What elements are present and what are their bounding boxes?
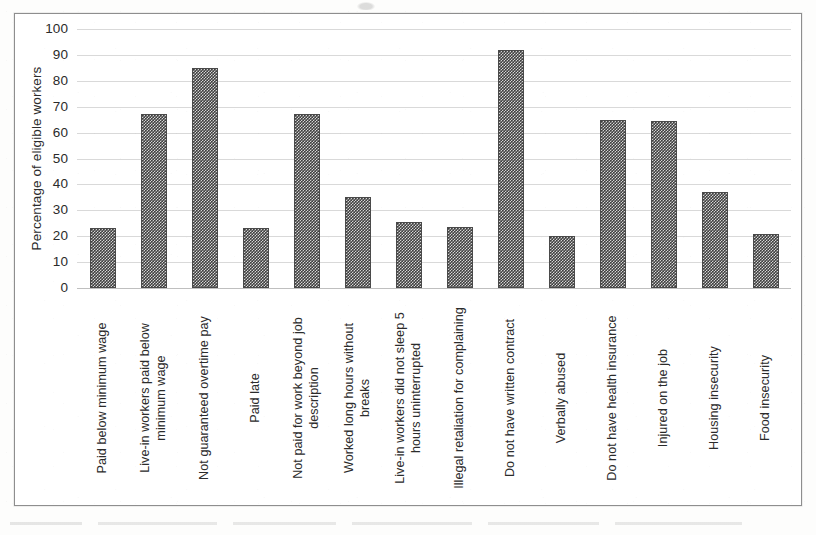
bar [192, 68, 218, 288]
bar [396, 222, 422, 288]
bar-slot [179, 29, 230, 288]
x-axis-category-label: Illegal retaliation for complaining [452, 304, 468, 492]
y-axis-tick-label: 0 [60, 281, 68, 295]
bar [600, 120, 626, 288]
bar-slot [77, 29, 128, 288]
x-axis-category-label: Injured on the job [656, 304, 672, 492]
bar-slot [587, 29, 638, 288]
x-axis-category-label: Verbally abused [554, 304, 570, 492]
x-label-slot: Do not have health insurance [587, 304, 638, 500]
x-axis-category-label: Housing insecurity [707, 304, 723, 492]
x-label-slot: Paid late [230, 304, 281, 500]
bar-slot [332, 29, 383, 288]
bar-slot [536, 29, 587, 288]
x-axis-category-label: Do not have written contract [503, 304, 519, 492]
bar-series [77, 29, 791, 288]
bar [498, 50, 524, 288]
y-axis-title-text: Percentage of eligible workers [30, 67, 45, 251]
bar-slot [281, 29, 332, 288]
x-axis-category-label: Live-in workers did not sleep 5 hours un… [393, 304, 425, 492]
x-label-slot: Not guaranteed overtime pay [179, 304, 230, 500]
y-axis-tick-label: 20 [53, 229, 68, 243]
bar-slot [383, 29, 434, 288]
bar-slot [230, 29, 281, 288]
x-axis-category-label: Not paid for work beyond job description [291, 304, 323, 492]
bar [90, 228, 116, 288]
x-label-slot: Food insecurity [740, 304, 791, 500]
x-label-slot: Live-in workers did not sleep 5 hours un… [383, 304, 434, 500]
y-axis-title: Percentage of eligible workers [27, 29, 47, 288]
x-label-slot: Housing insecurity [689, 304, 740, 500]
x-axis-category-label: Food insecurity [758, 304, 774, 492]
bar [651, 121, 677, 288]
page-caption-mark [10, 515, 806, 531]
y-axis-tick-label: 100 [45, 22, 68, 36]
x-axis-category-label: Paid late [248, 304, 264, 492]
x-label-slot: Worked long hours without breaks [332, 304, 383, 500]
x-label-slot: Illegal retaliation for complaining [434, 304, 485, 500]
bar-slot [434, 29, 485, 288]
page-header-mark [355, 1, 377, 10]
y-axis-tick-label: 40 [53, 178, 68, 192]
x-label-slot: Verbally abused [536, 304, 587, 500]
y-axis-tick-label: 80 [53, 74, 68, 88]
bar-slot [485, 29, 536, 288]
bar [294, 114, 320, 288]
x-label-slot: Injured on the job [638, 304, 689, 500]
gridline [77, 288, 791, 289]
x-axis-category-label: Paid below minimum wage [95, 304, 111, 492]
y-axis-tick-label: 10 [53, 255, 68, 269]
x-label-slot: Do not have written contract [485, 304, 536, 500]
x-axis-category-label: Worked long hours without breaks [342, 304, 374, 492]
bar [702, 192, 728, 288]
bar [447, 227, 473, 288]
bar-slot [638, 29, 689, 288]
scanned-page: Percentage of eligible workers 100908070… [0, 0, 816, 535]
x-axis-category-labels: Paid below minimum wageLive-in workers p… [77, 304, 791, 500]
y-axis-tick-label: 90 [53, 48, 68, 62]
x-label-slot: Paid below minimum wage [77, 304, 128, 500]
chart-frame: Percentage of eligible workers 100908070… [14, 13, 802, 506]
bar-slot [689, 29, 740, 288]
y-axis-tick-label: 30 [53, 204, 68, 218]
x-axis-category-label: Live-in workers paid below minimum wage [138, 304, 170, 492]
x-axis-category-label: Do not have health insurance [605, 304, 621, 492]
bar [753, 234, 779, 288]
bar [243, 228, 269, 288]
y-axis-tick-label: 60 [53, 126, 68, 140]
bar [345, 197, 371, 288]
bar [549, 236, 575, 288]
bar-slot [740, 29, 791, 288]
y-axis-tick-label: 50 [53, 152, 68, 166]
bar [141, 114, 167, 288]
plot-area: 1009080706050403020100 [77, 29, 791, 288]
x-axis-category-label: Not guaranteed overtime pay [197, 304, 213, 492]
x-label-slot: Live-in workers paid below minimum wage [128, 304, 179, 500]
bar-slot [128, 29, 179, 288]
y-axis-tick-label: 70 [53, 100, 68, 114]
x-label-slot: Not paid for work beyond job description [281, 304, 332, 500]
